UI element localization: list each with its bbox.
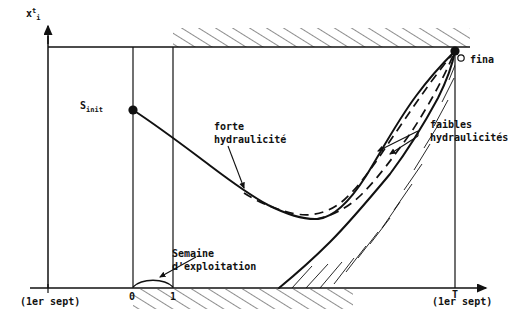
hatch-lower-axis xyxy=(133,289,353,309)
tick-label-0: 0 xyxy=(129,291,135,302)
brace-semaine-exploitation xyxy=(133,280,173,287)
label-s-init-sub: init xyxy=(86,106,103,114)
s-init-point xyxy=(128,105,137,114)
label-semaine-line2: d'exploitation xyxy=(172,260,256,273)
s-final-point xyxy=(450,46,459,55)
y-axis-label: xti xyxy=(26,6,40,24)
curve-forte-hydraulicite xyxy=(133,51,455,219)
label-forte-hydraulicite: forte hydraulicité xyxy=(214,120,286,146)
label-semaine-exploitation: Semaine d'exploitation xyxy=(172,247,256,273)
label-faibles-line1: faibles xyxy=(430,118,508,131)
label-s-init: Sinit xyxy=(80,100,103,116)
caption-left-sept: (1er sept) xyxy=(20,296,80,307)
label-forte-line1: forte xyxy=(214,120,286,133)
caption-right-sept: (1er sept) xyxy=(432,296,492,307)
label-forte-line2: hydraulicité xyxy=(214,133,286,146)
arrow-faibles-lower xyxy=(390,136,418,154)
label-faibles-line2: hydraulicités xyxy=(430,131,508,144)
label-semaine-line1: Semaine xyxy=(172,247,256,260)
label-s-final-text: fina xyxy=(470,54,494,65)
label-faibles-hydraulicites: faibles hydraulicités xyxy=(430,118,508,144)
label-s-final: fina xyxy=(470,54,494,65)
s-final-point-outline xyxy=(458,55,464,61)
y-axis-label-sub: i xyxy=(36,14,40,22)
hatch-upper-infeasible xyxy=(173,28,470,47)
tick-label-1: 1 xyxy=(170,291,176,302)
curve-lower-boundary xyxy=(279,51,455,288)
